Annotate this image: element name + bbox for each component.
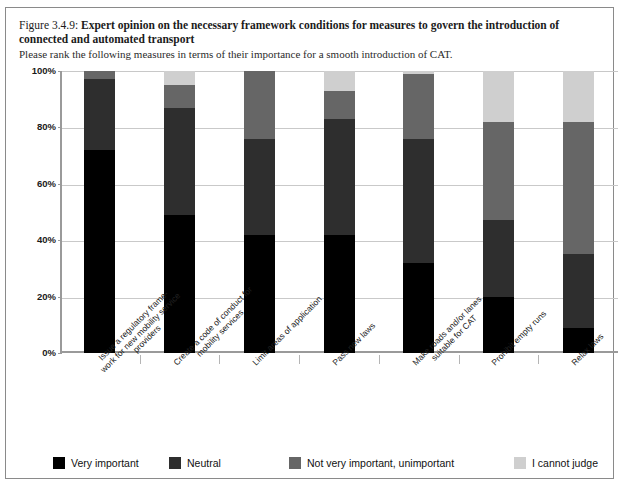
bar-segment[interactable] bbox=[84, 71, 115, 79]
y-axis-tick-labels: 0%20%40%60%80%100% bbox=[6, 71, 56, 353]
legend-swatch bbox=[514, 457, 526, 469]
bar-segment[interactable] bbox=[84, 150, 115, 353]
bar-segment[interactable] bbox=[483, 220, 514, 296]
figure-root: Figure 3.4.9: Expert opinion on the nece… bbox=[0, 0, 625, 492]
y-tick-label: 80% bbox=[10, 121, 56, 132]
y-tick-label: 60% bbox=[10, 178, 56, 189]
figure-title: Expert opinion on the necessary framewor… bbox=[19, 19, 559, 45]
y-tick-mark bbox=[58, 297, 62, 298]
bar-segment[interactable] bbox=[244, 139, 275, 235]
bar-segment[interactable] bbox=[324, 91, 355, 119]
bar-segment[interactable] bbox=[324, 235, 355, 353]
bar-segment[interactable] bbox=[324, 119, 355, 235]
legend-swatch bbox=[169, 457, 181, 469]
x-tick-mark bbox=[538, 355, 539, 364]
figure-number: Figure 3.4.9: bbox=[19, 19, 78, 31]
x-tick-mark bbox=[459, 355, 460, 364]
bar-stack bbox=[324, 71, 355, 353]
y-tick-label: 100% bbox=[10, 65, 56, 76]
bar-stack bbox=[403, 71, 434, 353]
legend-item[interactable]: Neutral bbox=[169, 457, 221, 469]
legend-item[interactable]: I cannot judge bbox=[514, 457, 598, 469]
bar-segment[interactable] bbox=[324, 71, 355, 91]
bar-segment[interactable] bbox=[403, 71, 434, 74]
x-axis-labels: Issue a regulatory frame-work for new mo… bbox=[60, 355, 618, 445]
legend-label: Very important bbox=[71, 457, 139, 469]
y-tick-mark bbox=[58, 127, 62, 128]
y-tick-label: 0% bbox=[10, 347, 56, 358]
bar-column[interactable] bbox=[403, 71, 434, 353]
x-tick-mark bbox=[219, 355, 220, 364]
legend-label: I cannot judge bbox=[532, 457, 598, 469]
figure-subtitle: Please rank the following measures in te… bbox=[19, 48, 611, 61]
bar-column[interactable] bbox=[324, 71, 355, 353]
y-tick-mark bbox=[58, 240, 62, 241]
y-tick-mark bbox=[58, 353, 62, 354]
legend-swatch bbox=[53, 457, 65, 469]
y-tick-mark bbox=[58, 184, 62, 185]
x-tick-mark bbox=[299, 355, 300, 364]
bar-segment[interactable] bbox=[483, 122, 514, 221]
x-tick-mark bbox=[379, 355, 380, 364]
legend-swatch bbox=[289, 457, 301, 469]
bar-segment[interactable] bbox=[164, 85, 195, 108]
bar-segment[interactable] bbox=[244, 71, 275, 139]
legend-label: Not very important, unimportant bbox=[307, 457, 454, 469]
y-tick-label: 40% bbox=[10, 234, 56, 245]
chart-legend: Very importantNeutralNot very important,… bbox=[19, 451, 611, 475]
legend-item[interactable]: Not very important, unimportant bbox=[289, 457, 454, 469]
bar-segment[interactable] bbox=[403, 74, 434, 139]
legend-item[interactable]: Very important bbox=[53, 457, 139, 469]
figure-caption: Figure 3.4.9: Expert opinion on the nece… bbox=[19, 19, 611, 46]
bar-segment[interactable] bbox=[164, 108, 195, 215]
figure-frame: Figure 3.4.9: Expert opinion on the nece… bbox=[5, 7, 614, 479]
bar-column[interactable] bbox=[563, 71, 594, 353]
bar-stack bbox=[563, 71, 594, 353]
bar-segment[interactable] bbox=[563, 122, 594, 255]
bar-segment[interactable] bbox=[403, 139, 434, 263]
y-tick-mark bbox=[58, 71, 62, 72]
legend-label: Neutral bbox=[187, 457, 221, 469]
bar-segment[interactable] bbox=[483, 71, 514, 122]
bar-column[interactable] bbox=[84, 71, 115, 353]
bar-segment[interactable] bbox=[563, 254, 594, 327]
x-tick-mark bbox=[140, 355, 141, 364]
y-tick-label: 20% bbox=[10, 291, 56, 302]
bar-segment[interactable] bbox=[164, 71, 195, 85]
bar-stack bbox=[84, 71, 115, 353]
bar-segment[interactable] bbox=[84, 79, 115, 150]
bar-segment[interactable] bbox=[563, 71, 594, 122]
